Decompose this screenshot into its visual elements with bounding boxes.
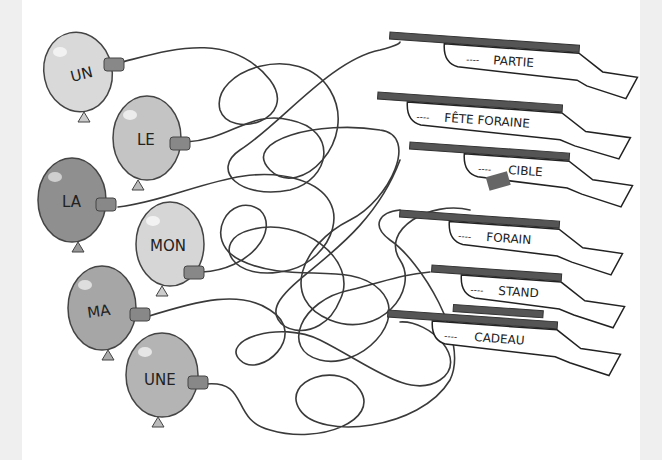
balloon-label-mon: MON [150, 237, 186, 255]
balloon-label-le: LE [137, 131, 155, 149]
maze-illustration: UN LE LA MON MA [0, 0, 662, 460]
rifle-label-stand: STAND [498, 284, 539, 301]
balloon-mon[interactable]: MON [136, 202, 204, 296]
balloon-la[interactable]: LA [38, 158, 116, 252]
svg-text:----: ---- [478, 164, 492, 175]
svg-text:----: ---- [458, 231, 472, 242]
balloon-label-la: LA [62, 193, 82, 211]
svg-text:----: ---- [470, 285, 484, 296]
rifle-forain[interactable]: ---- FORAIN [397, 210, 625, 276]
rifle-partie[interactable]: ---- PARTIE [387, 32, 640, 99]
rifle-label-cible: CIBLE [508, 163, 543, 179]
balloon-label-une: UNE [144, 371, 176, 389]
svg-text:----: ---- [416, 112, 430, 123]
balloon-une[interactable]: UNE [126, 333, 208, 427]
rifle-label-partie: PARTIE [493, 53, 534, 70]
svg-text:----: ---- [444, 331, 458, 342]
balloons: UN LE LA MON MA [36, 26, 208, 427]
balloon-le[interactable]: LE [113, 96, 190, 190]
balloon-label-ma: MA [86, 301, 112, 322]
rifles: ---- PARTIE ---- FÊTE FORAINE ---- CIBLE… [375, 32, 640, 376]
balloon-un[interactable]: UN [36, 26, 124, 122]
svg-text:----: ---- [466, 54, 480, 65]
